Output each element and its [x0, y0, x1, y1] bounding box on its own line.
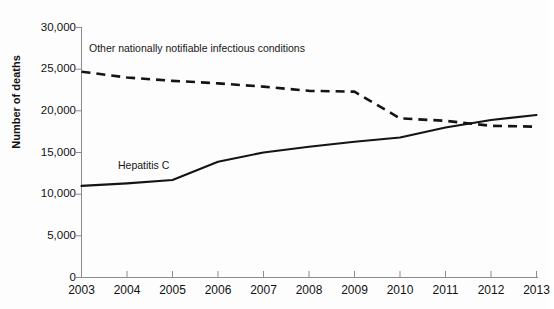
x-tick-label: 2003 [59, 283, 105, 297]
x-tick-label: 2012 [468, 283, 514, 297]
series-annotation-other-conditions: Other nationally notifiable infectious c… [89, 42, 305, 54]
x-tick-label: 2010 [377, 283, 423, 297]
x-tick-label: 2007 [241, 283, 287, 297]
x-tick-label: 2006 [195, 283, 241, 297]
series-line-other-conditions [82, 72, 537, 127]
series-annotation-hepatitis-c: Hepatitis C [118, 159, 169, 171]
x-tick-label: 2008 [286, 283, 332, 297]
x-tick-label: 2005 [150, 283, 196, 297]
x-tick-label: 2011 [423, 283, 469, 297]
x-tick-label: 2013 [514, 283, 554, 297]
series-line-hepatitis-c [82, 115, 537, 186]
x-tick-label: 2004 [104, 283, 150, 297]
x-tick-label: 2009 [332, 283, 378, 297]
